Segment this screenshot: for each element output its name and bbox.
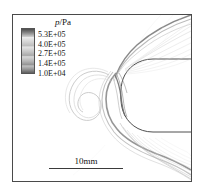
plot-frame: p/Pa 5.3E+05 4.0E+05 2.7E+05 1.4E+05 1.0… [12,14,192,182]
scale-bar: 10mm [49,156,123,169]
colorbar-tick-1: 4.0E+05 [38,40,65,49]
colorbar-tick-4: 1.0E+04 [38,69,65,78]
legend-body: 5.3E+05 4.0E+05 2.7E+05 1.4E+05 1.0E+04 [21,28,99,78]
colorbar-tick-2: 2.7E+05 [38,49,65,58]
colorbar-tick-0: 5.3E+05 [38,30,65,39]
colorbar-gradient [21,28,35,74]
figure-container: p/Pa 5.3E+05 4.0E+05 2.7E+05 1.4E+05 1.0… [0,0,204,193]
colorbar-tick-labels: 5.3E+05 4.0E+05 2.7E+05 1.4E+05 1.0E+04 [38,30,65,78]
scale-bar-label: 10mm [49,156,123,167]
legend-title-unit: Pa [62,17,71,27]
colorbar-legend: p/Pa 5.3E+05 4.0E+05 2.7E+05 1.4E+05 1.0… [21,17,99,78]
colorbar-tick-3: 1.4E+05 [38,59,65,68]
legend-title: p/Pa [27,17,99,28]
scale-bar-line [49,168,123,169]
